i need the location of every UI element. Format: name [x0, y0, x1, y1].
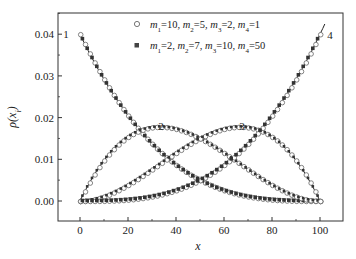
y-tick-label: 0.01 — [35, 153, 54, 165]
chart: 020406080100 0.000.010.020.030.04 x ρ(xi… — [0, 0, 356, 259]
x-tick-label: 100 — [312, 224, 329, 236]
curve-label-4: 4 — [327, 29, 333, 41]
x-axis-label: x — [194, 239, 201, 253]
x-tick-label: 20 — [123, 224, 135, 236]
data-markers — [78, 32, 323, 203]
y-tick-label: 0.02 — [35, 112, 54, 124]
curve-label-3: 3 — [239, 120, 245, 132]
legend-entry-1: m1=10, m2=5, m3=2, m4=1 — [150, 19, 260, 34]
legend: m1=10, m2=5, m3=2, m4=1 m1=2, m2=7, m3=1… — [134, 19, 265, 55]
legend-entry-2: m1=2, m2=7, m3=10, m4=50 — [150, 40, 265, 55]
svg-text:ρ(xi): ρ(xi) — [5, 106, 23, 128]
x-tick-label: 60 — [219, 224, 231, 236]
y-tick-label: 0.04 — [35, 28, 55, 40]
legend-filled-square-marker — [135, 43, 140, 48]
y-axis-label: ρ(xi) — [5, 106, 23, 128]
x-tick-label: 0 — [77, 224, 83, 236]
y-tick-label: 0.00 — [35, 195, 55, 207]
legend-open-circle-marker — [134, 21, 139, 26]
x-tick-label: 40 — [171, 224, 183, 236]
y-tick-label: 0.03 — [35, 70, 55, 82]
x-axis-ticks: 020406080100 — [77, 217, 329, 236]
curve-label-2: 2 — [158, 120, 164, 132]
x-tick-label: 80 — [267, 224, 279, 236]
curve-1 — [80, 34, 320, 201]
curve-label-1: 1 — [63, 28, 69, 40]
